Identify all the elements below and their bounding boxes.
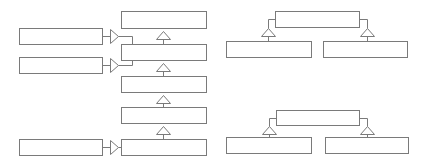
generalization-arrow-gen-5-4 xyxy=(157,127,171,140)
hollow-triangle-arrowhead-icon xyxy=(361,127,375,135)
branch-arrow-br-left xyxy=(263,119,277,138)
generalization-arrow-gen-3-2 xyxy=(157,64,171,77)
class-box-left-2 xyxy=(20,58,103,74)
arrow-route xyxy=(119,61,133,66)
hollow-triangle-arrowhead-icon xyxy=(157,32,171,40)
class-box-rect xyxy=(122,12,207,29)
hollow-triangle-arrowhead-icon xyxy=(361,29,375,37)
arrow-route xyxy=(269,20,276,29)
arrow-route xyxy=(360,119,368,127)
class-box-br-child-left xyxy=(227,138,312,154)
hollow-triangle-arrowhead-icon xyxy=(263,127,277,135)
generalization-arrow-gen-4-3 xyxy=(157,96,171,108)
class-box-tr-parent xyxy=(276,12,360,28)
hollow-triangle-arrowhead-icon xyxy=(111,141,119,155)
hollow-triangle-arrowhead-icon xyxy=(111,59,119,73)
class-box-rect xyxy=(276,12,360,28)
arrow-route xyxy=(270,119,277,127)
class-box-rect xyxy=(122,140,207,156)
class-box-rect xyxy=(227,42,312,58)
arrow-route xyxy=(360,20,368,29)
class-box-rect xyxy=(324,42,408,58)
class-box-rect xyxy=(227,138,312,154)
class-box-rect xyxy=(122,108,207,124)
branch-arrow-br-right xyxy=(360,119,375,138)
arrow-route xyxy=(119,37,133,45)
branch-arrow-tr-left xyxy=(262,20,276,42)
class-box-chain-1 xyxy=(122,12,207,29)
hollow-triangle-arrowhead-icon xyxy=(262,29,276,37)
inheritance-diagram xyxy=(0,0,423,163)
class-box-rect xyxy=(20,140,103,156)
class-box-chain-2 xyxy=(122,45,207,61)
class-box-rect xyxy=(277,111,360,126)
class-box-tr-child-right xyxy=(324,42,408,58)
hollow-triangle-arrowhead-icon xyxy=(157,127,171,135)
class-box-chain-4 xyxy=(122,108,207,124)
branch-arrow-tr-right xyxy=(360,20,375,42)
class-box-br-parent xyxy=(277,111,360,126)
class-box-chain-5 xyxy=(122,140,207,156)
class-box-rect xyxy=(122,77,207,93)
class-boxes xyxy=(20,12,409,156)
hollow-triangle-arrowhead-icon xyxy=(111,30,119,44)
realization-arrow-real-left1 xyxy=(103,30,133,45)
class-box-br-child-right xyxy=(326,138,409,154)
class-box-left-1 xyxy=(20,29,103,45)
class-box-tr-child-left xyxy=(227,42,312,58)
class-box-rect xyxy=(20,58,103,74)
realization-arrow-real-left3 xyxy=(103,141,122,155)
hollow-triangle-arrowhead-icon xyxy=(157,96,171,104)
hollow-triangle-arrowhead-icon xyxy=(157,64,171,72)
class-box-left-3 xyxy=(20,140,103,156)
generalization-arrow-gen-2-1 xyxy=(157,32,171,45)
class-box-rect xyxy=(326,138,409,154)
class-box-rect xyxy=(20,29,103,45)
class-box-chain-3 xyxy=(122,77,207,93)
class-box-rect xyxy=(122,45,207,61)
